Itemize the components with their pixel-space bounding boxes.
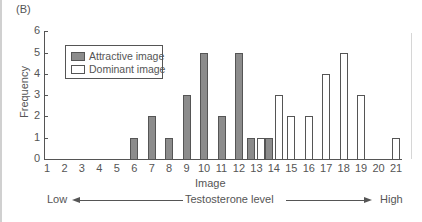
x-axis-title: Image [195, 177, 226, 189]
left-frame-border [0, 0, 2, 222]
bar-dominant [340, 53, 348, 161]
plot-right-border [411, 33, 412, 159]
bar-dominant [287, 116, 295, 160]
legend: Attractive image Dominant image [65, 45, 163, 79]
bar-attractive [265, 138, 273, 160]
arrow-line-right [286, 200, 366, 201]
x-tick-label: 21 [386, 162, 406, 174]
bar-attractive [235, 53, 243, 161]
scale-low-label: Low [47, 193, 67, 205]
bar-attractive [130, 138, 138, 160]
bar-attractive [200, 53, 208, 161]
y-tick-label: 5 [26, 46, 40, 58]
testosterone-scale: Low Testosterone level High [40, 193, 400, 207]
arrow-line-left [78, 200, 184, 201]
panel-label: (B) [16, 3, 31, 15]
legend-item-attractive: Attractive image [71, 50, 164, 62]
bar-dominant [305, 116, 313, 160]
scale-title: Testosterone level [183, 193, 276, 205]
bar-attractive [247, 138, 255, 160]
y-tick-label: 6 [26, 24, 40, 36]
y-tick-label: 2 [26, 109, 40, 121]
bar-attractive [165, 138, 173, 160]
y-tick-label: 1 [26, 131, 40, 143]
legend-label: Dominant image [89, 63, 165, 75]
y-axis [44, 31, 45, 159]
arrow-right-icon [364, 197, 372, 203]
y-tick-label: 4 [26, 67, 40, 79]
legend-label: Attractive image [89, 50, 164, 62]
bar-dominant [357, 95, 365, 160]
bar-dominant [392, 138, 400, 160]
bar-attractive [148, 116, 156, 160]
bar-dominant [275, 95, 283, 160]
bar-dominant [322, 74, 330, 160]
legend-swatch-gray [71, 52, 85, 61]
legend-item-dominant: Dominant image [71, 63, 165, 75]
scale-high-label: High [380, 193, 403, 205]
y-tick-label: 3 [26, 88, 40, 100]
bar-attractive [183, 95, 191, 160]
legend-swatch-white [71, 65, 85, 74]
bar-attractive [218, 116, 226, 160]
